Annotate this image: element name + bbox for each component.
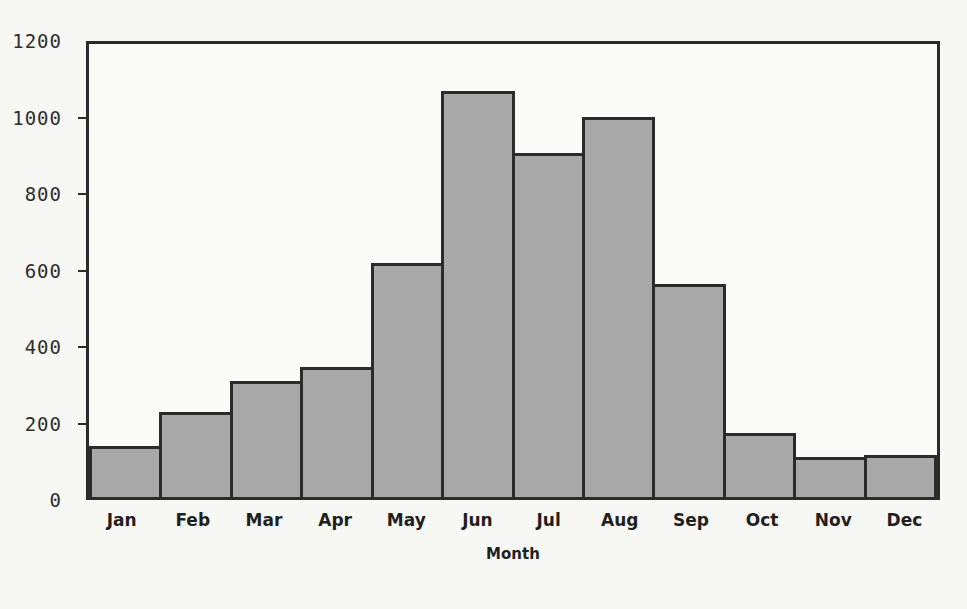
x-axis-tick-label: Aug	[584, 505, 655, 539]
bar-series	[89, 44, 937, 497]
y-axis-tick-label: 1000	[12, 107, 62, 129]
bar	[300, 367, 373, 497]
y-axis-tick-label: 200	[25, 413, 62, 435]
bar	[89, 446, 162, 497]
x-axis-tick-label: Apr	[300, 505, 371, 539]
y-axis-tick-label: 0	[50, 489, 62, 511]
bar	[230, 381, 303, 497]
x-axis-tick-label: Feb	[157, 505, 228, 539]
x-axis-tick-label: May	[371, 505, 442, 539]
bar	[864, 455, 937, 497]
plot-area	[86, 41, 940, 500]
bar	[793, 457, 866, 497]
x-axis-tick-label: Jul	[513, 505, 584, 539]
x-axis: JanFebMarAprMayJunJulAugSepOctNovDec	[86, 505, 940, 539]
x-axis-tick-label: Dec	[869, 505, 940, 539]
bar	[512, 153, 585, 497]
x-axis-tick-label: Mar	[228, 505, 299, 539]
bar	[371, 263, 444, 497]
bar	[582, 117, 655, 497]
x-axis-title: Month	[86, 545, 940, 563]
plot-inner	[89, 44, 937, 497]
bar	[159, 412, 232, 497]
y-axis-tick-label: 1200	[12, 30, 62, 52]
y-axis-tick-label: 600	[25, 260, 62, 282]
bar-chart: 020040060080010001200 JanFebMarAprMayJun…	[0, 0, 967, 609]
x-axis-tick-label: Nov	[798, 505, 869, 539]
y-axis: 020040060080010001200	[0, 41, 78, 500]
bar	[723, 433, 796, 497]
y-axis-tick-label: 400	[25, 336, 62, 358]
x-axis-tick-label: Sep	[655, 505, 726, 539]
y-axis-tick-label: 800	[25, 183, 62, 205]
x-axis-tick-label: Jan	[86, 505, 157, 539]
x-axis-tick-label: Oct	[727, 505, 798, 539]
bar	[652, 284, 725, 497]
bar	[441, 91, 514, 497]
x-axis-tick-label: Jun	[442, 505, 513, 539]
